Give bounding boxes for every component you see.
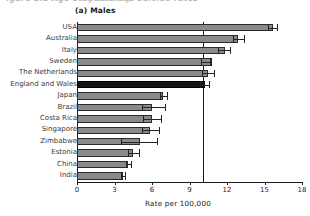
bar-usa [77, 24, 273, 31]
error-bar-italy [218, 47, 231, 54]
error-bar-sweden [201, 58, 212, 65]
error-bar-brazil [142, 104, 166, 111]
y-axis-label-england-and-wales: England and Wales [10, 80, 77, 89]
bar-chart: Rate per 100,000 USAAustraliaItalySweden… [0, 0, 310, 216]
bar-brazil [77, 104, 152, 111]
y-axis-label-zimbabwe: Zimbabwe [40, 137, 77, 146]
error-bar-usa [268, 24, 278, 31]
x-tick-6 [152, 182, 153, 186]
x-tick-12 [227, 182, 228, 186]
error-bar-australia [233, 35, 244, 42]
x-tick-15 [265, 182, 266, 186]
x-tick-18 [302, 182, 303, 186]
x-tick-label-18: 18 [298, 186, 307, 194]
x-tick-label-0: 0 [75, 186, 79, 194]
y-axis-label-japan: Japan [57, 91, 77, 100]
y-axis-label-australia: Australia [46, 34, 77, 43]
error-bar-costa-rica [143, 115, 162, 122]
x-axis-title-text: Rate per 100,000 [99, 199, 211, 208]
bar-sweden [77, 58, 211, 65]
x-tick-label-12: 12 [223, 186, 232, 194]
bar-china [77, 161, 128, 168]
bar-singapore [77, 127, 150, 134]
x-tick-label-9: 9 [187, 186, 191, 194]
bar-the-netherlands [77, 70, 208, 77]
x-tick-3 [115, 182, 116, 186]
x-tick-label-3: 3 [112, 186, 116, 194]
bar-australia [77, 35, 238, 42]
y-axis-label-china: China [57, 160, 77, 169]
x-axis-title: Rate per 100,000 [0, 199, 310, 208]
y-axis-label-costa-rica: Costa Rica [40, 114, 77, 123]
error-bar-england-and-wales [200, 81, 210, 88]
error-bar-japan [160, 92, 169, 99]
y-axis-label-usa: USA [63, 23, 78, 32]
error-bar-china [126, 161, 132, 168]
bar-japan [77, 92, 163, 99]
y-axis-label-the-netherlands: The Netherlands [19, 68, 77, 77]
y-axis-label-estonia: Estonia [51, 148, 77, 157]
bar-italy [77, 47, 225, 54]
x-tick-0 [77, 182, 78, 186]
error-bar-zimbabwe [121, 138, 159, 145]
y-axis-label-italy: Italy [62, 46, 77, 55]
bar-england-and-wales [77, 81, 205, 88]
bar-estonia [77, 149, 133, 156]
y-axis-label-sweden: Sweden [49, 57, 77, 66]
bar-costa-rica [77, 115, 152, 122]
y-axis-label-india: India [60, 171, 77, 180]
x-tick-label-6: 6 [150, 186, 154, 194]
error-bar-estonia [128, 149, 139, 156]
error-bar-india [121, 172, 126, 179]
y-axis-label-brazil: Brazil [57, 103, 77, 112]
x-tick-label-15: 15 [260, 186, 269, 194]
error-bar-the-netherlands [202, 70, 215, 77]
x-tick-9 [190, 182, 191, 186]
error-bar-singapore [142, 127, 160, 134]
y-axis-label-singapore: Singapore [42, 125, 77, 134]
bar-india [77, 172, 123, 179]
